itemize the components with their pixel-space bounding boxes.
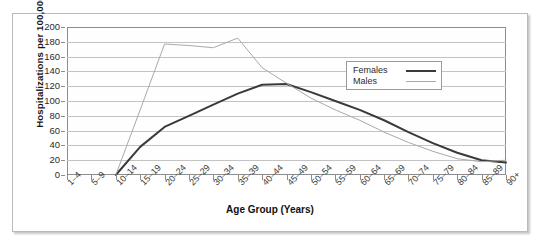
y-tick-mark: [61, 145, 65, 146]
y-tick-label: 0: [55, 170, 60, 180]
y-tick-mark: [61, 101, 65, 102]
legend-label-males: Males: [353, 77, 377, 86]
series-lines: [67, 27, 506, 175]
x-axis-title: Age Group (Years): [13, 204, 527, 215]
y-tick-label: 20: [49, 155, 60, 165]
y-tick-mark: [61, 57, 65, 58]
y-tick-label: 100: [44, 96, 60, 106]
plot-area: [67, 27, 506, 175]
y-tick-mark: [61, 86, 65, 87]
legend-swatch-females: [406, 67, 436, 74]
chart-legend: Females Males: [346, 61, 442, 90]
y-tick-label: 180: [44, 37, 60, 47]
chart-figure: Hospitalizations per 100,000 20018016014…: [12, 13, 528, 232]
y-tick-label: 60: [49, 126, 60, 136]
y-tick-label: 80: [49, 111, 60, 121]
y-tick-label: 40: [49, 141, 60, 151]
y-axis-tick-labels: 200180160140120100806040200: [13, 27, 65, 175]
y-tick-label: 200: [44, 22, 60, 32]
y-tick-mark: [61, 160, 65, 161]
series-line-males: [116, 38, 506, 175]
y-tick-mark: [61, 175, 65, 176]
legend-item-females: Females: [353, 65, 436, 76]
y-tick-mark: [61, 42, 65, 43]
legend-label-females: Females: [353, 66, 388, 75]
y-tick-mark: [61, 27, 65, 28]
y-tick-mark: [61, 71, 65, 72]
y-tick-label: 120: [44, 81, 60, 91]
x-tick-label: 90+: [505, 170, 522, 187]
y-tick-label: 140: [44, 67, 60, 77]
y-tick-mark: [61, 116, 65, 117]
y-tick-mark: [61, 131, 65, 132]
legend-swatch-males: [406, 78, 436, 85]
y-tick-label: 160: [44, 52, 60, 62]
legend-item-males: Males: [353, 76, 436, 87]
